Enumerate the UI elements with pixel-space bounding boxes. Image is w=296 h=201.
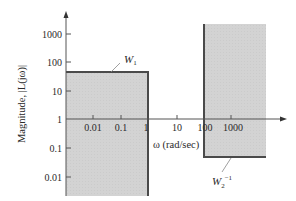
x-tick-0.01: 0.01 [84, 122, 102, 133]
w1-label: W1 [124, 53, 137, 67]
x-tick-1: 1 [144, 122, 149, 133]
w1-region [66, 72, 149, 196]
w2-inverse-label: W2−1 [212, 174, 233, 190]
w2-inverse-annotation: W2−1 [212, 158, 233, 190]
y-axis-label: Magnitude, |L(jω)| [16, 65, 28, 143]
y-tick-10: 10 [52, 86, 62, 97]
y-tick-0.1: 0.1 [50, 143, 63, 154]
x-tick-10: 10 [172, 122, 182, 133]
w1-annotation: W1 [111, 53, 137, 72]
x-axis-label: ω (rad/sec) [153, 139, 200, 151]
y-tick-1000: 1000 [42, 29, 62, 40]
x-tick-1000: 1000 [223, 122, 243, 133]
y-axis-arrow-icon [64, 11, 69, 18]
y-tick-0.01: 0.01 [45, 172, 63, 183]
w2-inverse-region [203, 24, 266, 158]
loop-shaping-chart: 1000 100 10 1 0.1 0.01 0.01 0.1 1 10 100… [0, 0, 296, 201]
x-tick-100: 100 [198, 122, 213, 133]
y-tick-1: 1 [57, 114, 62, 125]
x-axis-arrow-icon [280, 117, 287, 122]
y-tick-100: 100 [47, 57, 62, 68]
x-tick-0.1: 0.1 [115, 122, 128, 133]
